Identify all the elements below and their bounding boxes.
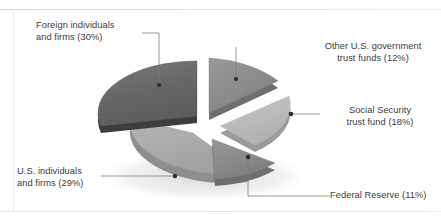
slice-label-federal-reserve: Federal Reserve (11%) [330,190,426,202]
slice-label-foreign-individuals-and-firms: Foreign individuals and firms (30%) [36,20,114,43]
dot-us-individuals [173,174,177,178]
dot-social-security [289,112,294,117]
slice-top-foreign [98,61,197,126]
dot-other-gov [234,77,238,81]
slice-top-other-gov [209,58,278,113]
slice-label-other-gov-trust-funds: Other U.S. government trust funds (12%) [307,41,439,64]
slice-label-social-security-trust-fund: Social Security trust fund (18%) [322,105,438,128]
slice-label-us-individuals-and-firms: U.S. individuals and firms (29%) [17,166,83,189]
dot-federal-reserve [246,155,250,159]
pie-chart-figure: Foreign individuals and firms (30%) Othe… [0,0,441,220]
dot-foreign [157,83,161,87]
pie-slice-foreign-individuals-and-firms [98,61,197,133]
